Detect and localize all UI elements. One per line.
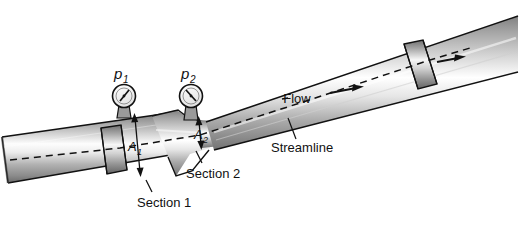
area-1-label: A <box>127 139 137 154</box>
gauge-p1-label: p <box>113 65 122 82</box>
figure-canvas: Flow p 1 p 2 A 1 A 2 Sectio <box>0 0 520 230</box>
gauge-p1-sublabel: 1 <box>123 74 129 85</box>
flow-label-tick <box>282 98 288 99</box>
gauge-p1[interactable] <box>113 85 136 119</box>
pipe-assembly <box>2 16 518 183</box>
area-2-sublabel: 2 <box>202 135 208 145</box>
callout-section-1: Section 1 <box>137 180 191 210</box>
callout-section-2: Section 2 <box>186 151 240 181</box>
gauge-p2-sublabel: 2 <box>189 74 196 85</box>
gauge-p2-label: p <box>180 65 189 82</box>
venturi-meter-diagram: Flow p 1 p 2 A 1 A 2 Sectio <box>0 0 520 230</box>
streamline-label: Streamline <box>271 140 333 155</box>
section-1-label: Section 1 <box>137 195 191 210</box>
area-2-label: A <box>193 127 203 142</box>
inlet-barrel <box>2 113 176 183</box>
area-1-sublabel: 1 <box>137 147 142 157</box>
section-2-label: Section 2 <box>186 166 240 181</box>
